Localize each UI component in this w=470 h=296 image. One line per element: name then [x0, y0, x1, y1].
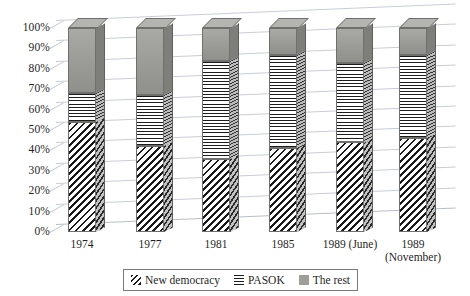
bar-segment-pasok	[136, 95, 164, 146]
legend-swatch-nd-icon	[131, 275, 141, 285]
y-axis-tick-label: 10%	[4, 206, 50, 217]
bar-segment-nd	[68, 122, 96, 232]
bar-segment-rest	[399, 28, 427, 55]
y-axis-tick-label: 100%	[4, 22, 50, 33]
bar-segment-pasok	[336, 63, 364, 143]
gridline	[56, 106, 456, 123]
gridline	[56, 24, 456, 41]
bar-segment-nd	[136, 146, 164, 232]
bar-segment-side-pasok	[427, 50, 436, 138]
legend-swatch-rest-icon	[299, 275, 309, 285]
gridline	[56, 85, 456, 102]
bar-segment-nd	[269, 148, 297, 232]
bar-segment-side-pasok	[230, 56, 239, 158]
bar-1985	[269, 28, 297, 232]
legend-item-rest[interactable]: The rest	[299, 274, 350, 286]
bar-segment-rest	[269, 28, 297, 55]
bar-segment-rest	[68, 28, 96, 93]
gridline	[56, 187, 456, 204]
legend-item-nd[interactable]: New democracy	[131, 274, 220, 286]
gridline	[56, 65, 456, 82]
gridline	[56, 208, 456, 225]
y-axis-tick-label: 0%	[4, 226, 50, 237]
bar-segment-side-pasok	[364, 58, 373, 142]
bar-segment-side-rest	[364, 24, 373, 63]
bar-segment-side-pasok	[297, 50, 306, 148]
bar-segment-nd	[399, 138, 427, 232]
bar-1981	[202, 28, 230, 232]
bar-segment-pasok	[399, 55, 427, 139]
bar-segment-side-nd	[230, 154, 239, 232]
x-axis-tick-label-line: (November)	[367, 251, 459, 264]
bar-segment-side-nd	[364, 138, 373, 232]
bar-segment-rest	[336, 28, 364, 63]
bar-segment-rest	[202, 28, 230, 61]
bar-segment-side-rest	[297, 24, 306, 55]
y-axis: 100%90%80%70%60%50%40%30%20%10%0%	[0, 0, 50, 296]
bar-segment-side-pasok	[164, 91, 173, 146]
y-axis-tick-label: 90%	[4, 42, 50, 53]
gridline	[56, 146, 456, 163]
bar-segment-side-nd	[96, 117, 105, 232]
bar-segment-pasok	[269, 55, 297, 149]
bar-1989-june-	[336, 28, 364, 232]
legend-label: PASOK	[248, 274, 285, 286]
legend-label: New democracy	[145, 274, 220, 286]
legend-swatch-pasok-icon	[234, 275, 244, 285]
chart-legend: New democracyPASOKThe rest	[123, 269, 358, 291]
plot-area	[56, 28, 456, 232]
gridline	[56, 44, 456, 61]
bar-segment-pasok	[68, 93, 96, 122]
x-axis-tick-label-line: 1989	[367, 238, 459, 251]
bar-1977	[136, 28, 164, 232]
bar-segment-side-rest	[96, 24, 105, 94]
y-axis-tick-label: 40%	[4, 144, 50, 155]
bar-segment-side-pasok	[96, 89, 105, 122]
chart-container: 100%90%80%70%60%50%40%30%20%10%0% 197419…	[0, 0, 470, 296]
legend-item-pasok[interactable]: PASOK	[234, 274, 285, 286]
x-axis-tick-label: 1989(November)	[367, 238, 459, 264]
bar-segment-nd	[202, 159, 230, 232]
y-axis-tick-label: 80%	[4, 63, 50, 74]
y-axis-tick-label: 50%	[4, 124, 50, 135]
y-axis-tick-label: 20%	[4, 185, 50, 196]
gridline	[56, 126, 456, 143]
gridline	[56, 167, 456, 184]
legend-label: The rest	[313, 274, 350, 286]
y-axis-tick-label: 60%	[4, 104, 50, 115]
bar-segment-pasok	[202, 61, 230, 159]
bar-segment-side-rest	[427, 24, 436, 55]
y-axis-tick-label: 30%	[4, 165, 50, 176]
grid-backplane	[56, 28, 456, 232]
bar-segment-side-nd	[164, 142, 173, 232]
bar-1974	[68, 28, 96, 232]
gridline	[56, 4, 456, 21]
bar-1989-november-	[399, 28, 427, 232]
y-axis-tick-label: 70%	[4, 83, 50, 94]
bar-segment-side-rest	[164, 24, 173, 96]
bar-segment-side-rest	[230, 24, 239, 61]
bar-segment-nd	[336, 142, 364, 232]
bar-segment-rest	[136, 28, 164, 95]
bar-segment-side-nd	[427, 134, 436, 232]
bar-segment-side-nd	[297, 144, 306, 232]
